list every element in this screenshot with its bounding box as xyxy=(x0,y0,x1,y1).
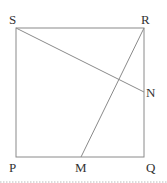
label-p: P xyxy=(9,160,16,175)
label-q: Q xyxy=(146,160,156,175)
square-pqrs xyxy=(16,28,144,157)
segment-sn xyxy=(16,28,144,92)
label-m: M xyxy=(75,160,87,175)
label-r: R xyxy=(141,12,150,27)
segment-rm xyxy=(81,28,144,157)
label-n: N xyxy=(146,85,156,100)
geometry-diagram: S R N P M Q xyxy=(0,0,167,183)
label-s: S xyxy=(9,12,16,27)
